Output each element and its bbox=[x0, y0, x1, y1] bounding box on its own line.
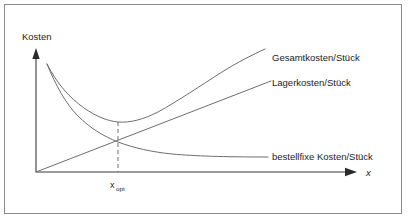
x-opt-tick-label: x bbox=[110, 180, 115, 190]
chart-plot-area: Kosten x x opt Gesamtkosten/Stück Lagerk… bbox=[0, 0, 408, 220]
y-axis-arrowhead bbox=[32, 48, 39, 59]
x-opt-tick-label-subscript: opt bbox=[116, 185, 125, 192]
series-label-lagerkosten: Lagerkosten/Stück bbox=[272, 77, 351, 88]
series-curve-gesamtkosten bbox=[47, 49, 265, 122]
chart-screenshot: Kosten x x opt Gesamtkosten/Stück Lagerk… bbox=[0, 0, 408, 220]
y-axis-label: Kosten bbox=[22, 31, 52, 42]
series-label-gesamtkosten: Gesamtkosten/Stück bbox=[272, 52, 360, 63]
x-axis-label: x bbox=[365, 167, 372, 178]
series-label-bestellfixe: bestellfixe Kosten/Stück bbox=[272, 151, 373, 162]
series-curve-bestellfixe bbox=[47, 64, 268, 157]
series-line-lagerkosten bbox=[36, 81, 271, 172]
x-axis-arrowhead bbox=[345, 168, 357, 176]
